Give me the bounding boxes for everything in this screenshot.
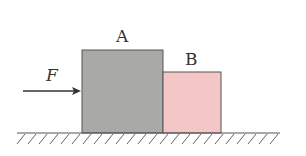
block-b [163,72,221,133]
force-arrow-icon [23,87,81,95]
ground-hatching [17,134,278,144]
block-b-label: B [185,49,198,69]
block-a [82,50,163,133]
block-a-label: A [115,26,129,46]
diagram: F A B [0,0,306,156]
force-label: F [45,65,59,85]
